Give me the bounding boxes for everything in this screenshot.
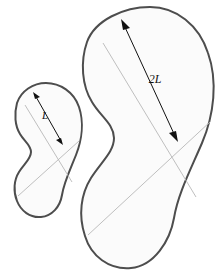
large-dimension-label: 2L [149, 72, 162, 86]
small-dimension-label: L [41, 109, 48, 121]
large-bean-outline [81, 7, 213, 268]
small-bean-group: L [15, 83, 82, 217]
large-bean-group: 2L [81, 7, 213, 268]
small-bean-outline [15, 83, 82, 217]
similar-shapes-diagram: Two similar bean shapes with linear dime… [0, 0, 222, 276]
figure-container: Two similar bean shapes with linear dime… [0, 0, 222, 276]
